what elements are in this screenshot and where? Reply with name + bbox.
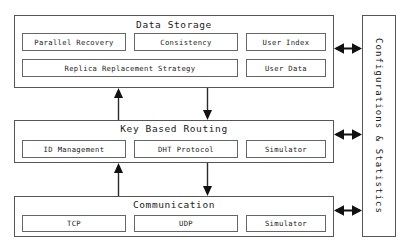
component-user-data[interactable]: User Data xyxy=(246,59,326,77)
arrow-double-horizontal-icon-communication xyxy=(334,204,362,217)
component-id-management[interactable]: ID Management xyxy=(22,140,126,158)
side-panel-label: Configurations & Statistics xyxy=(374,38,384,214)
component-dht-protocol[interactable]: DHT Protocol xyxy=(134,140,238,158)
component-user-index[interactable]: User Index xyxy=(246,33,326,51)
component-parallel-recovery[interactable]: Parallel Recovery xyxy=(22,33,126,51)
component-simulator-communication[interactable]: Simulator xyxy=(246,215,326,232)
arrow-up-icon-storage-routing xyxy=(113,88,124,120)
layer-communication-title: Communication xyxy=(14,199,334,210)
arrow-double-horizontal-icon-storage xyxy=(334,42,362,55)
component-replica-replacement-strategy[interactable]: Replica Replacement Strategy xyxy=(22,59,238,77)
component-tcp[interactable]: TCP xyxy=(22,215,126,232)
component-udp[interactable]: UDP xyxy=(134,215,238,232)
layer-data-storage-title: Data Storage xyxy=(14,19,334,30)
architecture-diagram: Data Storage Parallel Recovery Consisten… xyxy=(0,0,401,250)
arrow-double-horizontal-icon-routing xyxy=(334,128,362,141)
component-simulator-routing[interactable]: Simulator xyxy=(246,140,326,158)
arrow-down-icon-storage-routing xyxy=(202,88,213,120)
component-consistency[interactable]: Consistency xyxy=(134,33,238,51)
layer-key-based-routing-title: Key Based Routing xyxy=(14,123,334,134)
arrow-down-icon-routing-communication xyxy=(202,163,213,196)
side-panel-configurations-statistics: Configurations & Statistics xyxy=(362,15,396,237)
arrow-up-icon-routing-communication xyxy=(113,163,124,196)
